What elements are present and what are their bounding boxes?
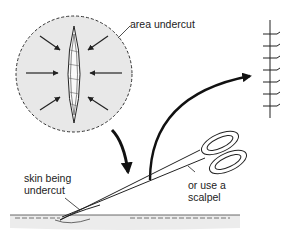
- area-undercut-leader: [118, 26, 130, 38]
- label-alt-line2: scalpel: [188, 191, 221, 203]
- curved-arrow-down-icon: [112, 130, 128, 172]
- scissors-icon: [60, 126, 250, 220]
- scalpel-leader: [188, 166, 195, 172]
- label-skin-line2: undercut: [24, 184, 65, 196]
- label-area-undercut: area undercut: [130, 18, 195, 30]
- label-alt-line1: or use a: [188, 179, 226, 191]
- skin-leader: [65, 198, 80, 210]
- sutured-wound-icon: [263, 20, 280, 118]
- diagram-canvas: [0, 0, 302, 243]
- skin-cross-section: [10, 215, 240, 230]
- label-skin-line1: skin being: [24, 172, 71, 184]
